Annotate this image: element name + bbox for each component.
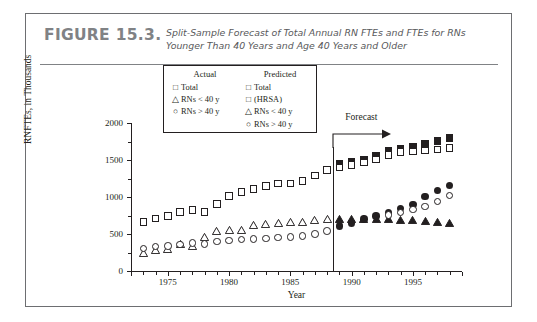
legend-item-label: RNs > 40 y	[181, 106, 219, 117]
marker-actual-rns-40-y	[164, 242, 172, 250]
y-tick	[127, 234, 131, 235]
x-tick-label: 1975	[148, 278, 188, 287]
marker-predicted-total-hrsa	[421, 147, 429, 155]
marker-actual-rns-40-y	[262, 235, 270, 243]
legend-item-label: RNs < 40 y	[181, 94, 219, 105]
marker-predicted-total-hrsa	[397, 148, 405, 156]
marker-actual-rns-40-y	[140, 245, 148, 253]
x-tick-minor	[156, 272, 157, 275]
marker-predicted-rns-40-y	[336, 222, 344, 230]
x-axis-endcap	[131, 272, 132, 276]
x-axis-title: Year	[131, 290, 462, 300]
legend-header-predicted: Predicted	[243, 69, 317, 79]
marker-predicted-rns-40-y	[360, 215, 368, 223]
marker-predicted-rns-40-y	[421, 193, 429, 201]
marker-predicted-rns-40-y	[445, 213, 454, 221]
marker-actual-rns-40-y	[250, 235, 258, 243]
x-tick-minor	[180, 272, 181, 275]
marker-predicted-total-hrsa	[409, 148, 417, 156]
x-tick-label: 1995	[393, 278, 433, 287]
marker-predicted-rns-40-y-open	[421, 203, 429, 211]
legend-item-label: Total	[254, 82, 271, 93]
figure-frame: FIGURE 15.3. Split-Sample Forecast of To…	[25, 13, 512, 307]
marker-predicted-total-hrsa	[372, 156, 380, 164]
marker-predicted-total-hrsa	[385, 151, 393, 159]
marker-actual-total	[287, 180, 295, 188]
y-tick-label: 2000	[83, 119, 123, 128]
marker-actual-total	[311, 172, 319, 180]
y-tick-minor	[128, 179, 131, 180]
marker-predicted-total-hrsa	[446, 144, 454, 152]
forecast-divider-line	[333, 147, 334, 271]
marker-predicted-rns-40-y	[434, 187, 442, 195]
x-tick	[229, 272, 230, 276]
x-tick-minor	[303, 272, 304, 275]
figure-number: FIGURE 15.3.	[44, 26, 161, 44]
x-tick-minor	[450, 272, 451, 275]
legend-item-label: RNs < 40 y	[254, 106, 292, 117]
marker-actual-total	[262, 182, 270, 190]
marker-actual-rns-40-y	[299, 232, 307, 240]
x-tick-minor	[241, 272, 242, 275]
marker-predicted-total-hrsa	[360, 159, 368, 167]
legend-symbol-icon: □	[243, 94, 254, 105]
y-tick-minor	[128, 142, 131, 143]
marker-predicted-total-hrsa	[434, 146, 442, 154]
x-tick	[290, 272, 291, 276]
marker-actual-total	[250, 185, 258, 193]
y-tick-minor	[128, 216, 131, 217]
y-tick-label: 0	[83, 267, 123, 276]
marker-actual-rns-40-y	[176, 241, 184, 249]
legend-item-predicted-0: □Total	[243, 81, 317, 93]
legend-item-predicted-2: △RNs < 40 y	[243, 106, 317, 118]
marker-actual-rns-40-y	[311, 230, 319, 238]
x-tick-minor	[254, 272, 255, 275]
legend-item-actual-1: △RNs < 40 y	[170, 93, 240, 105]
marker-actual-rns-40-y	[225, 237, 233, 245]
figure-header: FIGURE 15.3. Split-Sample Forecast of To…	[26, 14, 511, 66]
marker-actual-total	[176, 208, 184, 216]
marker-predicted-rns-40-y	[335, 209, 344, 217]
marker-actual-total	[274, 180, 282, 188]
marker-predicted-rns-40-y-open	[434, 198, 442, 206]
legend-symbol-icon: △	[170, 94, 181, 105]
marker-actual-total	[225, 192, 233, 200]
legend-column-actual: Actual □Total△RNs < 40 y○RNs > 40 y	[170, 69, 240, 118]
legend-item-predicted-3: ○RNs > 40 y	[243, 118, 317, 130]
marker-actual-total	[201, 208, 209, 216]
legend-symbol-icon: △	[243, 106, 254, 117]
marker-actual-rns-40-y	[274, 234, 282, 242]
marker-predicted-rns-40-y	[347, 209, 356, 217]
y-tick	[127, 160, 131, 161]
legend-symbol-icon: □	[170, 82, 181, 93]
marker-actual-rns-40-y	[274, 213, 283, 221]
x-tick-minor	[376, 272, 377, 275]
x-tick-minor	[192, 272, 193, 275]
chart-plot: RNFTEs, in Thousands Year 05001000150020…	[26, 66, 513, 306]
marker-actual-total	[164, 212, 172, 220]
marker-actual-rns-40-y	[286, 212, 295, 220]
marker-actual-rns-40-y	[310, 210, 319, 218]
y-tick	[127, 123, 131, 124]
x-tick	[413, 272, 414, 276]
x-tick-minor	[327, 272, 328, 275]
marker-predicted-rns-40-y-open	[409, 206, 417, 214]
legend-column-predicted: Predicted □Total□(HRSA)△RNs < 40 y○RNs >…	[243, 69, 317, 131]
x-tick-minor	[278, 272, 279, 275]
legend-header-actual: Actual	[170, 69, 240, 79]
marker-predicted-total-hrsa	[336, 164, 344, 172]
x-tick-minor	[425, 272, 426, 275]
marker-predicted-total	[446, 134, 454, 142]
y-tick	[127, 197, 131, 198]
marker-predicted-rns-40-y	[372, 212, 380, 220]
x-tick-minor	[217, 272, 218, 275]
marker-actual-rns-40-y	[213, 238, 221, 246]
marker-actual-total	[152, 215, 160, 223]
legend-item-actual-2: ○RNs > 40 y	[170, 106, 240, 118]
chart-legend: Actual □Total△RNs < 40 y○RNs > 40 y Pred…	[163, 65, 317, 133]
y-axis-line	[131, 123, 132, 271]
marker-actual-total	[323, 166, 331, 174]
x-tick-label: 1990	[332, 278, 372, 287]
marker-predicted-rns-40-y	[421, 211, 430, 219]
forecast-arrow-icon	[332, 125, 394, 149]
